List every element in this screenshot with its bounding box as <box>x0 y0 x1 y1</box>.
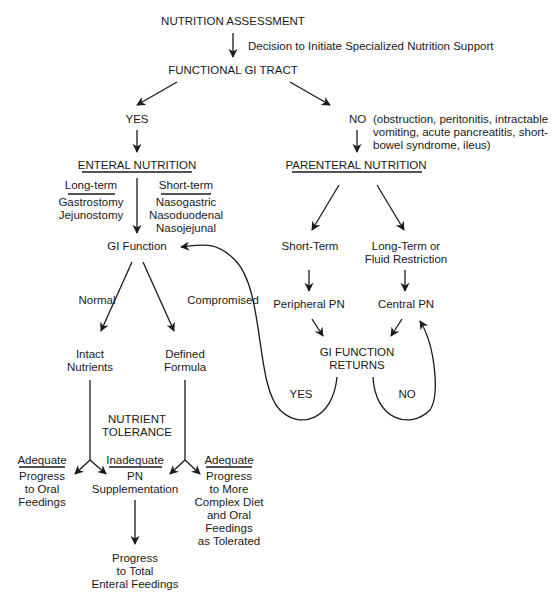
node-nutrient-tolerance: NUTRIENT TOLERANCE <box>102 413 172 439</box>
heading-long-term: Long-term <box>65 179 117 192</box>
node-enteral-nutrition: ENTERAL NUTRITION <box>78 159 196 172</box>
arrow-to-yes <box>137 82 177 105</box>
label-returns-yes: YES <box>289 388 312 401</box>
arrow-peripheral-to-returns <box>312 319 323 336</box>
node-long-term-pn: Long-Term or Fluid Restriction <box>365 240 447 266</box>
arrow-intact-adequate <box>75 460 90 474</box>
arrow-parenteral-to-long-term <box>377 185 404 230</box>
node-functional-gi-tract: FUNCTIONAL GI TRACT <box>168 64 298 77</box>
heading-inadequate: Inadequate <box>106 454 164 467</box>
arrow-central-to-returns <box>391 319 402 336</box>
heading-adequate-left: Adequate <box>17 454 66 467</box>
label-no: NO <box>349 113 366 126</box>
arrow-returns-yes-to-gi-function <box>181 245 337 420</box>
node-progress-complex-diet: Progress to More Complex Diet and Oral F… <box>194 470 263 548</box>
arrow-to-defined-formula <box>143 262 174 331</box>
arrow-to-no <box>290 82 330 105</box>
label-returns-no: NO <box>398 388 415 401</box>
decision-note: Decision to Initiate Specialized Nutriti… <box>248 40 493 53</box>
nutrition-support-flowchart: NUTRITION ASSESSMENT Decision to Initiat… <box>0 0 554 603</box>
heading-short-term: Short-term <box>159 179 213 192</box>
label-yes: YES <box>125 113 148 126</box>
no-reasons: (obstruction, peritonitis, intractable v… <box>373 113 548 152</box>
node-peripheral-pn: Peripheral PN <box>273 298 345 311</box>
short-term-options: Nasogastric Nasoduodenal Nasojejunal <box>149 196 223 235</box>
node-parenteral-nutrition: PARENTERAL NUTRITION <box>285 159 426 172</box>
node-central-pn: Central PN <box>378 298 434 311</box>
label-normal: Normal <box>78 294 115 307</box>
node-short-term-pn: Short-Term <box>282 240 339 253</box>
node-progress-oral: Progress to Oral Feedings <box>18 470 65 509</box>
node-gi-function: GI Function <box>107 240 166 253</box>
node-intact-nutrients: Intact Nutrients <box>67 348 113 374</box>
label-compromised: Compromised <box>187 294 259 307</box>
node-gi-function-returns: GI FUNCTION RETURNS <box>320 346 395 372</box>
node-defined-formula: Defined Formula <box>164 348 206 374</box>
arrow-parenteral-to-short-term <box>312 185 339 230</box>
node-nutrition-assessment: NUTRITION ASSESSMENT <box>161 15 305 28</box>
node-total-enteral-feedings: Progress to Total Enteral Feedings <box>92 552 179 591</box>
node-pn-supplementation: PN Supplementation <box>92 470 178 496</box>
heading-adequate-right: Adequate <box>204 454 253 467</box>
long-term-options: Gastrostomy Jejunostomy <box>58 196 123 222</box>
